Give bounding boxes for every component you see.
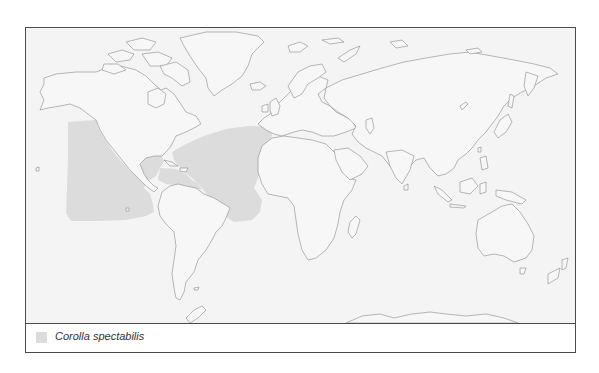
taiwan <box>478 147 481 152</box>
sri-lanka <box>404 184 408 190</box>
falklands <box>194 287 199 290</box>
map-legend: Corolla spectabilis <box>26 324 575 352</box>
galapagos <box>126 208 129 211</box>
borneo <box>460 178 478 194</box>
hawaii <box>36 167 39 171</box>
java <box>450 204 466 208</box>
sumatra <box>434 186 452 202</box>
iceland <box>250 82 266 90</box>
new-zealand-north <box>562 258 568 270</box>
tasmania <box>520 268 526 274</box>
world-map <box>26 28 575 324</box>
australia <box>476 204 534 262</box>
world-map-svg <box>26 28 575 323</box>
severnaya-zemlya <box>390 40 408 48</box>
legend-label-species: Corolla spectabilis <box>55 330 144 342</box>
new-zealand-south <box>548 268 560 284</box>
arctic-islands-2 <box>126 38 156 50</box>
ireland <box>262 104 268 112</box>
franz-josef <box>322 38 344 44</box>
map-figure: Corolla spectabilis <box>25 27 576 353</box>
philippines <box>480 156 488 170</box>
svalbard <box>288 42 308 52</box>
baffin-island <box>160 62 190 86</box>
sulawesi <box>480 182 486 194</box>
antarctic-peninsula <box>186 306 206 323</box>
south-america <box>158 184 230 300</box>
madagascar <box>348 216 360 238</box>
india <box>386 150 414 184</box>
novaya-zemlya <box>338 46 360 62</box>
antarctica <box>346 312 518 323</box>
new-guinea <box>496 190 526 204</box>
arctic-islands-1 <box>108 50 134 62</box>
legend-swatch <box>36 332 47 343</box>
